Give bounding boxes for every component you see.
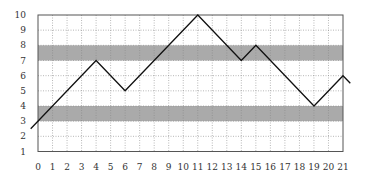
x-tick-label: 15 (250, 162, 262, 172)
y-tick-label: 2 (20, 131, 26, 141)
x-tick-label: 2 (64, 162, 70, 172)
x-tick-label: 5 (108, 162, 114, 172)
x-tick-label: 8 (151, 162, 157, 172)
x-tick-label: 0 (35, 162, 41, 172)
x-tick-label: 1 (50, 162, 56, 172)
y-tick-label: 1 (20, 147, 26, 157)
x-tick-label: 3 (79, 162, 85, 172)
y-tick-label: 10 (15, 10, 27, 20)
x-tick-label: 12 (207, 162, 218, 172)
x-tick-label: 7 (137, 162, 143, 172)
y-tick-label: 5 (20, 86, 26, 96)
x-tick-label: 11 (192, 162, 203, 172)
x-tick-label: 10 (178, 162, 190, 172)
x-tick-label: 20 (323, 162, 335, 172)
x-tick-label: 16 (265, 162, 277, 172)
y-tick-label: 4 (20, 101, 26, 111)
y-tick-label: 9 (20, 25, 26, 35)
grid-lines (38, 15, 343, 152)
x-tick-label: 14 (236, 162, 248, 172)
shaded-band (38, 45, 343, 60)
y-tick-label: 6 (20, 71, 26, 81)
x-tick-label: 9 (166, 162, 172, 172)
y-axis-ticks: 12345678910 (15, 10, 27, 157)
x-tick-label: 21 (337, 162, 348, 172)
shaded-band (38, 106, 343, 121)
x-tick-label: 17 (279, 162, 291, 172)
x-tick-label: 4 (93, 162, 99, 172)
line-chart: 12345678910 0123456789101112131415161718… (0, 0, 370, 178)
x-axis-ticks: 0123456789101112131415161718192021 (35, 162, 349, 172)
y-tick-label: 7 (20, 56, 26, 66)
y-tick-label: 8 (20, 40, 26, 50)
x-tick-label: 13 (221, 162, 233, 172)
plot-frame (38, 15, 343, 152)
shaded-bands (38, 45, 343, 121)
x-tick-label: 6 (122, 162, 128, 172)
y-tick-label: 3 (20, 116, 26, 126)
x-tick-label: 19 (308, 162, 320, 172)
x-tick-label: 18 (294, 162, 306, 172)
